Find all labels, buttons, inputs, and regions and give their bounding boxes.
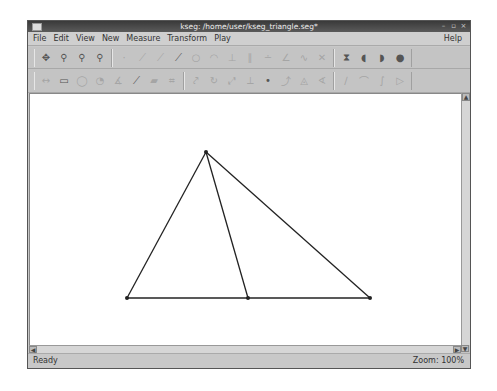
iterate-icon: ∕ xyxy=(344,75,347,86)
line-button[interactable]: ⟋ xyxy=(170,50,186,66)
parallel-button[interactable]: ∥ xyxy=(242,50,258,66)
calculate-button[interactable]: ⌗ xyxy=(164,73,180,89)
point-apex[interactable] xyxy=(204,150,208,154)
arc-segment-icon: ● xyxy=(396,52,405,63)
horizontal-scrollbar[interactable]: ◀ ▶ xyxy=(29,345,461,353)
midpoint-button[interactable]: ∸ xyxy=(260,50,276,66)
kseg-window: kseg: /home/user/kseg_triangle.seg* – ▫ … xyxy=(27,20,471,369)
locus-button[interactable]: ∿ xyxy=(296,50,312,66)
menu-help[interactable]: Help xyxy=(444,34,462,43)
dilate-icon: ⤢ xyxy=(228,75,236,87)
mark-vector-button[interactable]: ⤴ xyxy=(278,73,294,89)
point-base_left[interactable] xyxy=(125,296,129,300)
select-label-button[interactable]: ⚲ xyxy=(56,50,72,66)
point-base_mid[interactable] xyxy=(246,296,250,300)
dilate-button[interactable]: ⤢ xyxy=(224,73,240,89)
bisector-button[interactable]: ∠ xyxy=(278,50,294,66)
mark-vector-icon: ⤴ xyxy=(281,73,291,88)
play-icon: ▷ xyxy=(396,75,404,86)
arc-segment-button[interactable]: ● xyxy=(392,50,408,66)
toolbar2-group-1: ⤤↻⤢⟂•⤴◬∢ xyxy=(184,72,334,90)
window-title: kseg: /home/user/kseg_triangle.seg* xyxy=(180,22,317,31)
menu-measure[interactable]: Measure xyxy=(126,34,160,43)
scroll-right-arrow-icon[interactable]: ▶ xyxy=(453,346,461,353)
toolbar-construct: ✥⚲⚲⚲·⟋⟋⟋○◠⊥∥∸∠∿✕⧗◖◗● xyxy=(28,47,470,69)
reflect-button[interactable]: ⟂ xyxy=(242,73,258,89)
point-button[interactable]: · xyxy=(116,50,132,66)
construction-button[interactable]: ⌒ xyxy=(356,73,372,89)
scroll-left-arrow-icon[interactable]: ◀ xyxy=(29,346,37,353)
measure-circumference-icon: ◯ xyxy=(76,75,87,86)
toolbar1-group-2: ⧗◖◗● xyxy=(334,49,412,67)
locus-icon: ∿ xyxy=(300,52,308,63)
circle-interior-button[interactable]: ◖ xyxy=(356,50,372,66)
segment-apex-base_mid[interactable] xyxy=(206,152,248,298)
calculate-icon: ⌗ xyxy=(169,75,175,87)
measure-radius-button[interactable]: ◔ xyxy=(92,73,108,89)
intersection-button[interactable]: ✕ xyxy=(314,50,330,66)
segment-apex-base_right[interactable] xyxy=(206,152,370,298)
measure-angle-button[interactable]: ∡ xyxy=(110,73,126,89)
menu-play[interactable]: Play xyxy=(214,34,231,43)
polygon-fill-button[interactable]: ⧗ xyxy=(338,50,354,66)
menu-view[interactable]: View xyxy=(76,34,95,43)
measure-radius-icon: ◔ xyxy=(96,75,105,86)
perpendicular-icon: ⊥ xyxy=(228,52,237,63)
iterate-button[interactable]: ∕ xyxy=(338,73,354,89)
bisector-icon: ∠ xyxy=(282,52,291,63)
measure-area-button[interactable]: ▭ xyxy=(56,73,72,89)
measure-area-icon: ▭ xyxy=(59,75,68,86)
move-button[interactable]: ✥ xyxy=(38,50,54,66)
mark-mirror-icon: ◬ xyxy=(300,75,308,86)
mark-mirror-button[interactable]: ◬ xyxy=(296,73,312,89)
script-button[interactable]: ∫ xyxy=(374,73,390,89)
ray-icon: ⟋ xyxy=(157,52,164,64)
select-grid-icon: ⚲ xyxy=(78,52,85,63)
ray-button[interactable]: ⟋ xyxy=(152,50,168,66)
vertical-scrollbar[interactable]: ▲ xyxy=(461,93,470,345)
toolbar-measure-transform: ↔▭◯◔∡⟋▰⌗⤤↻⤢⟂•⤴◬∢∕⌒∫▷ xyxy=(28,69,470,93)
measure-distance-button[interactable]: ↔ xyxy=(38,73,54,89)
mark-angle-button[interactable]: ∢ xyxy=(314,73,330,89)
menu-file[interactable]: File xyxy=(33,34,46,43)
measure-slope-button[interactable]: ⟋ xyxy=(128,73,144,89)
scroll-down-arrow-icon[interactable]: ▼ xyxy=(461,345,469,352)
measure-circumference-button[interactable]: ◯ xyxy=(74,73,90,89)
rotate-button[interactable]: ↻ xyxy=(206,73,222,89)
translate-icon: ⤤ xyxy=(193,75,199,87)
maximize-button[interactable]: ▫ xyxy=(450,22,457,30)
app-icon[interactable] xyxy=(32,23,42,31)
minimize-button[interactable]: – xyxy=(440,22,447,30)
select-text-button[interactable]: ⚲ xyxy=(92,50,108,66)
mark-center-icon: • xyxy=(265,75,271,86)
point-icon: · xyxy=(122,52,125,63)
title-bar[interactable]: kseg: /home/user/kseg_triangle.seg* – ▫ … xyxy=(28,21,470,32)
arc-sector-button[interactable]: ◗ xyxy=(374,50,390,66)
scroll-up-arrow-icon[interactable]: ▲ xyxy=(462,93,470,101)
mark-center-button[interactable]: • xyxy=(260,73,276,89)
play-button[interactable]: ▷ xyxy=(392,73,408,89)
circle-button[interactable]: ○ xyxy=(188,50,204,66)
mark-angle-icon: ∢ xyxy=(318,75,326,86)
segment-button[interactable]: ⟋ xyxy=(134,50,150,66)
toolbar2-group-2: ∕⌒∫▷ xyxy=(334,72,412,90)
menu-edit[interactable]: Edit xyxy=(53,34,69,43)
select-grid-button[interactable]: ⚲ xyxy=(74,50,90,66)
toolbar2-group-0: ↔▭◯◔∡⟋▰⌗ xyxy=(34,72,184,90)
point-base_right[interactable] xyxy=(368,296,372,300)
perpendicular-button[interactable]: ⊥ xyxy=(224,50,240,66)
triangle-figure xyxy=(30,94,462,346)
measure-slope-icon: ⟋ xyxy=(133,75,140,87)
translate-button[interactable]: ⤤ xyxy=(188,73,204,89)
arc-icon: ◠ xyxy=(210,52,219,63)
arc-button[interactable]: ◠ xyxy=(206,50,222,66)
select-label-icon: ⚲ xyxy=(60,52,67,63)
measure-arc-button[interactable]: ▰ xyxy=(146,73,162,89)
arc-sector-icon: ◗ xyxy=(379,52,384,63)
menu-new[interactable]: New xyxy=(102,34,119,43)
construction-icon: ⌒ xyxy=(359,73,369,88)
segment-apex-base_left[interactable] xyxy=(127,152,206,298)
menu-transform[interactable]: Transform xyxy=(167,34,207,43)
drawing-canvas[interactable] xyxy=(29,93,461,345)
close-button[interactable]: × xyxy=(460,22,467,30)
